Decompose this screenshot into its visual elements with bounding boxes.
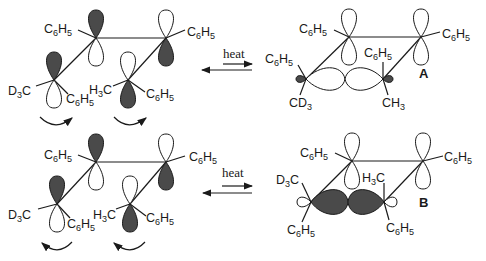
substituent-cd3: D3C xyxy=(276,173,299,189)
diagram-canvas: C6H5 C6H5 D3C C6H5 H3C C6H5 heat C6H5 C6… xyxy=(0,0,486,261)
top-equilibrium-arrows: heat xyxy=(202,46,252,70)
substituent-ch3: H3C xyxy=(362,171,385,187)
substituent-phenyl: C6H5 xyxy=(44,148,72,164)
rotation-arrow-icon xyxy=(114,242,145,250)
substituent-ch3: CH3 xyxy=(382,96,405,112)
substituent-phenyl: C6H5 xyxy=(146,87,174,103)
sigma-lobe xyxy=(348,190,384,215)
heat-label: heat xyxy=(222,165,244,180)
top-reactant: C6H5 C6H5 D3C C6H5 H3C C6H5 xyxy=(8,10,215,125)
sigma-lobe xyxy=(306,68,345,91)
heat-label: heat xyxy=(223,46,245,61)
product-label: B xyxy=(419,195,428,210)
substituent-phenyl: C6H5 xyxy=(44,22,72,38)
rotation-arrow-icon xyxy=(40,117,72,125)
substituent-cd3: CD3 xyxy=(289,96,312,112)
substituent-ch3: H3C xyxy=(89,83,112,99)
p-orbital xyxy=(50,176,65,232)
product-b: C6H5 C6H5 D3C H3C C6H5 C6H5 B xyxy=(276,133,472,239)
substituent-phenyl: C6H5 xyxy=(386,221,414,237)
substituent-phenyl: C6H5 xyxy=(146,211,174,227)
rotation-arrow-icon xyxy=(114,117,146,125)
p-orbital xyxy=(121,52,136,108)
bottom-reactant: C6H5 C6H5 D3C C6H5 H3C C6H5 xyxy=(8,134,217,250)
substituent-phenyl: C6H5 xyxy=(442,27,470,43)
substituent-phenyl: C6H5 xyxy=(287,223,315,239)
substituent-cd3: D3C xyxy=(8,208,31,224)
substituent-cd3: D3C xyxy=(8,84,31,100)
p-orbital xyxy=(123,176,138,232)
substituent-phenyl: C6H5 xyxy=(299,22,327,38)
substituent-phenyl: C6H5 xyxy=(444,150,472,166)
p-orbital xyxy=(47,52,62,108)
substituent-phenyl: C6H5 xyxy=(265,52,293,68)
bottom-equilibrium-arrows: heat xyxy=(203,165,252,193)
sigma-lobe xyxy=(345,68,383,91)
substituent-ch3: H3C xyxy=(93,208,116,224)
sigma-lobe xyxy=(311,190,348,215)
back-lobe xyxy=(384,197,397,207)
substituent-phenyl: C6H5 xyxy=(67,217,95,233)
substituent-phenyl: C6H5 xyxy=(189,150,217,166)
substituent-phenyl: C6H5 xyxy=(300,146,328,162)
product-label: A xyxy=(419,66,429,81)
substituent-phenyl: C6H5 xyxy=(364,46,392,62)
rotation-arrow-icon xyxy=(42,242,72,250)
substituent-phenyl: C6H5 xyxy=(187,25,215,41)
product-a: C6H5 C6H5 C6H5 C6H5 CD3 CH3 A xyxy=(265,9,470,112)
